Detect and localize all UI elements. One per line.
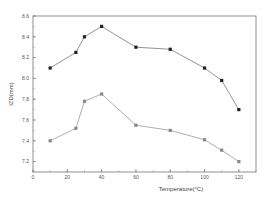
y-tick-label: 7.4	[22, 138, 29, 144]
data-point-marker	[83, 100, 86, 103]
x-tick-label: 100	[200, 174, 209, 180]
y-tick-label: 8.0	[22, 75, 29, 81]
y-tick-label: 8.2	[22, 54, 29, 60]
y-axis-title: IZD(mm)	[8, 82, 14, 106]
data-point-marker	[237, 160, 240, 163]
series-line	[50, 26, 239, 109]
series-1	[49, 25, 241, 111]
y-axis: 7.27.47.67.88.08.28.48.6	[22, 13, 36, 172]
data-point-marker	[169, 129, 172, 132]
data-point-marker	[169, 48, 172, 51]
data-point-marker	[100, 25, 103, 28]
y-tick-label: 7.6	[22, 117, 29, 123]
x-tick-label: 0	[32, 174, 35, 180]
data-point-marker	[134, 124, 137, 127]
line-chart: 020406080100120 7.27.47.67.88.08.28.48.6…	[0, 0, 269, 203]
data-point-marker	[237, 108, 240, 111]
data-point-marker	[100, 92, 103, 95]
x-tick-label: 120	[235, 174, 244, 180]
x-axis: 020406080100120	[32, 169, 256, 180]
series-layer	[49, 25, 241, 163]
x-tick-label: 60	[133, 174, 139, 180]
data-point-marker	[220, 149, 223, 152]
x-tick-label: 80	[167, 174, 173, 180]
data-point-marker	[220, 79, 223, 82]
data-point-marker	[74, 51, 77, 54]
y-tick-label: 8.4	[22, 34, 29, 40]
y-tick-label: 8.6	[22, 13, 29, 19]
data-point-marker	[203, 138, 206, 141]
data-point-marker	[49, 139, 52, 142]
series-line	[50, 94, 239, 162]
data-point-marker	[83, 35, 86, 38]
x-tick-label: 20	[65, 174, 71, 180]
x-axis-title: Temperature(°C)	[159, 186, 203, 192]
data-point-marker	[49, 66, 52, 69]
x-tick-label: 40	[99, 174, 105, 180]
data-point-marker	[203, 66, 206, 69]
data-point-marker	[134, 46, 137, 49]
series-2	[49, 92, 241, 163]
y-tick-label: 7.2	[22, 158, 29, 164]
y-tick-label: 7.8	[22, 96, 29, 102]
data-point-marker	[74, 127, 77, 130]
